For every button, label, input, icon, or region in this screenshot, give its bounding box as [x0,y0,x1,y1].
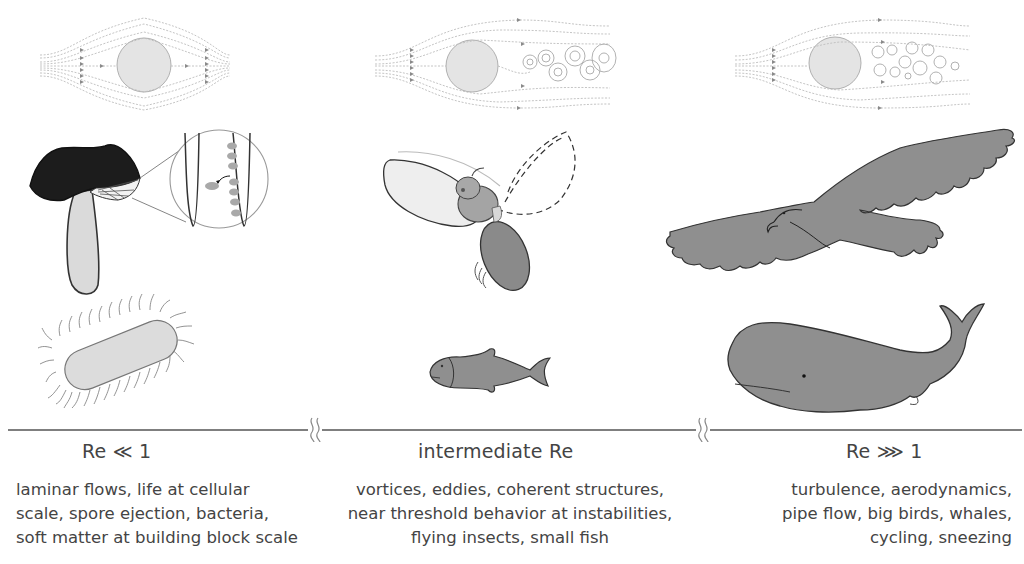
regime-label-low-re: Re ≪ 1 [82,440,151,462]
axis-break-icon [308,418,322,442]
description-line: flying insects, small fish [330,526,690,550]
regime-description-intermediate-re: vortices, eddies, coherent structures, n… [330,478,690,550]
vortex-street-panel [375,20,610,108]
description-line: pipe flow, big birds, whales, [782,502,1012,526]
description-line: vortices, eddies, coherent structures, [330,478,690,502]
regime-label-intermediate-re: intermediate Re [418,440,573,462]
regime-label-high-re: Re ⋙ 1 [846,440,922,462]
description-line: soft matter at building block scale [16,526,298,550]
spore-inset-icon [170,130,268,228]
fish-icon [430,349,550,392]
regime-description-high-re: turbulence, aerodynamics, pipe flow, big… [782,478,1012,550]
description-line: near threshold behavior at instabilities… [330,502,690,526]
vortex-icons [523,44,616,81]
description-line: turbulence, aerodynamics, [782,478,1012,502]
description-line: cycling, sneezing [782,526,1012,550]
bacterium-icon [38,294,194,408]
axis-break-icon-2 [696,418,710,442]
insect-icon [384,132,575,298]
description-line: laminar flows, life at cellular [16,478,298,502]
regime-description-low-re: laminar flows, life at cellular scale, s… [16,478,298,550]
turbulence-eddy-icons [872,42,959,84]
description-line: scale, spore ejection, bacteria, [16,502,298,526]
whale-icon [728,304,984,412]
laminar-flow-panel [40,18,230,110]
mushroom-icon [30,145,186,294]
eagle-icon [667,129,1015,270]
